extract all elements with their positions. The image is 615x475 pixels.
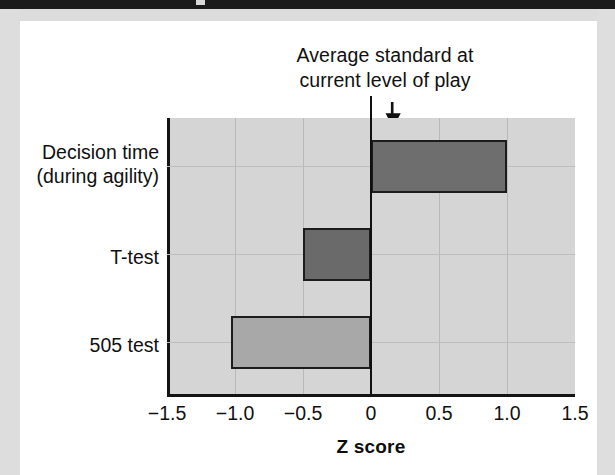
x-tick-label: 0 [341, 402, 401, 425]
annotation-line-2: current level of play [205, 68, 565, 93]
annotation-line-1: Average standard at [205, 43, 565, 68]
scan-top-band [0, 0, 615, 9]
x-tick-label: 0.5 [409, 402, 469, 425]
scan-artifact [196, 0, 205, 5]
figure-card: Average standard at current level of pla… [20, 21, 597, 475]
reference-line-annotation: Average standard at current level of pla… [205, 43, 565, 93]
x-axis-title: Z score [167, 436, 575, 458]
bar-decision-time [371, 140, 507, 193]
x-tick-label: −0.5 [273, 402, 333, 425]
x-axis-labels: −1.5 −1.0 −0.5 0 0.5 1.0 1.5 [167, 402, 575, 430]
y-axis-line [167, 118, 170, 394]
figure-page: Average standard at current level of pla… [0, 0, 615, 475]
x-tick-label: 1.5 [545, 402, 605, 425]
page-margin-top [0, 9, 615, 21]
zero-reference-line [370, 96, 372, 394]
plot-area [167, 118, 575, 394]
gridline-vertical [507, 118, 508, 394]
x-axis-line [167, 394, 575, 397]
y-axis-labels: Decision time (during agility) T-test 50… [20, 118, 159, 394]
page-margin-left [0, 9, 20, 475]
bar-t-test [303, 228, 371, 281]
y-tick-label-t-test: T-test [110, 245, 159, 269]
x-tick-label: 1.0 [477, 402, 537, 425]
y-tick-label-decision-time: Decision time (during agility) [37, 140, 159, 188]
bar-505-test [231, 316, 371, 369]
x-tick-label: −1.0 [205, 402, 265, 425]
y-tick-label-505-test: 505 test [90, 333, 159, 357]
x-tick-label: −1.5 [137, 402, 197, 425]
